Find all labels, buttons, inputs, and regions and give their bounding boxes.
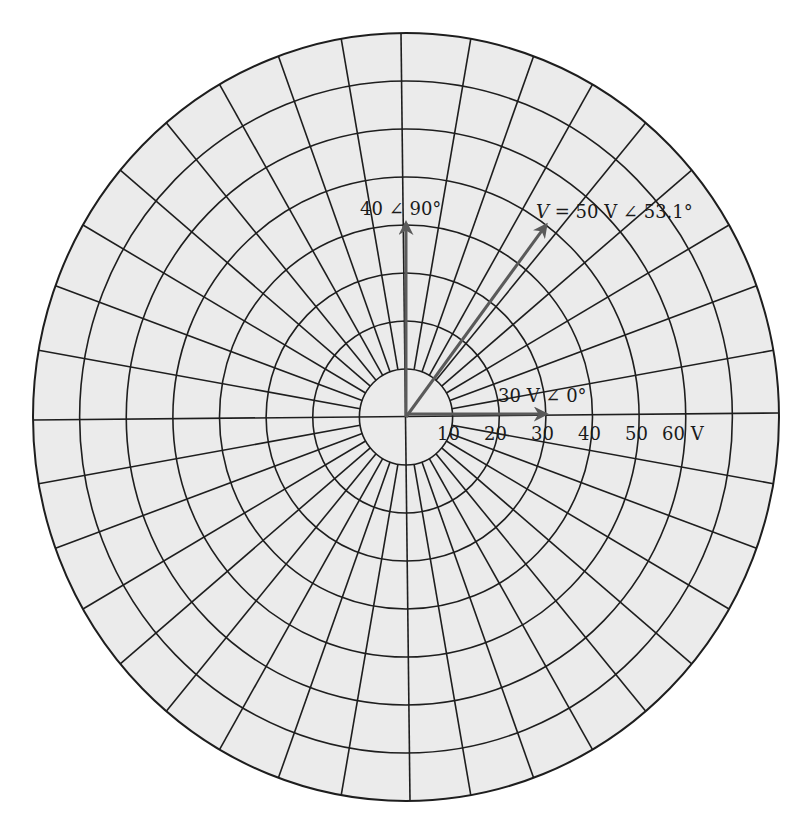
axis-label-40: 40 <box>578 423 601 444</box>
label-30v-0deg: 30 V ∠ 0° <box>498 385 587 406</box>
label-v-50v-53deg: V = 50 V ∠ 53.1° <box>536 201 693 222</box>
axis-label-10: 10 <box>437 423 460 444</box>
axis-label-60v: 60 V <box>662 423 705 444</box>
label-40-90deg: 40 ∠ 90° <box>360 198 441 219</box>
label-v-value: = 50 V ∠ 53.1° <box>549 201 693 222</box>
axis-label-50: 50 <box>625 423 648 444</box>
axis-label-20: 20 <box>484 423 507 444</box>
polar-phasor-diagram: 40 ∠ 90° V = 50 V ∠ 53.1° 30 V ∠ 0° 10 2… <box>0 0 805 828</box>
axis-label-30: 30 <box>531 423 554 444</box>
